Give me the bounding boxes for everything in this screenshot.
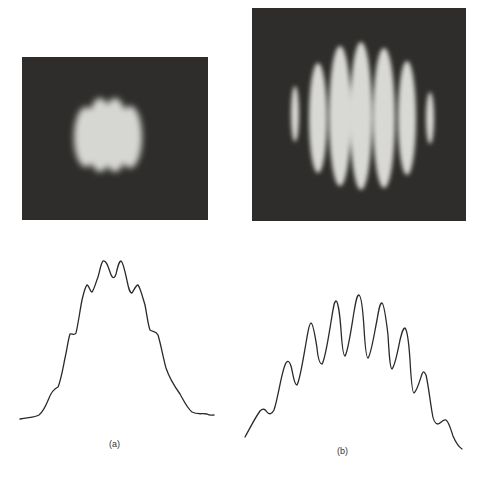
trace-b [245, 295, 462, 449]
panel-label-b: (b) [337, 446, 348, 456]
trace-a [20, 261, 214, 419]
panel-label-a: (a) [109, 439, 120, 449]
intensity-traces [0, 0, 484, 481]
